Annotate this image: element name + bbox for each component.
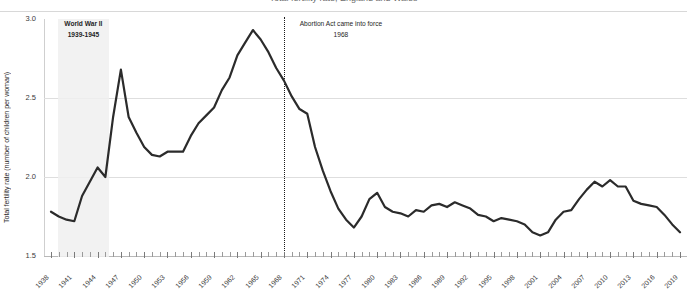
header-divider (0, 11, 687, 12)
chart-title: Total fertility rate, England and Wales (0, 0, 687, 3)
x-tick (680, 252, 681, 258)
x-tick (369, 252, 370, 257)
x-tick (276, 252, 277, 257)
x-tick (167, 252, 168, 258)
fertility-rate-series (51, 30, 680, 235)
x-tick (517, 252, 518, 258)
y-tick-label: 3.0 (14, 14, 36, 23)
x-tick (214, 252, 215, 258)
chart-title-strip: Total fertility rate, England and Wales (0, 0, 687, 11)
x-tick-label: 1995 (477, 273, 493, 289)
fertility-rate-chart: Total fertility rate, England and Wales … (0, 0, 687, 295)
x-tick (447, 252, 448, 258)
x-tick (284, 252, 285, 258)
x-tick (346, 252, 347, 257)
x-tick-label: 1944 (81, 273, 97, 289)
x-tick (237, 252, 238, 258)
x-tick (408, 252, 409, 257)
x-tick (556, 252, 557, 257)
x-tick-label: 1947 (104, 273, 120, 289)
x-tick (672, 252, 673, 257)
x-tick-label: 1965 (244, 273, 260, 289)
x-tick (416, 252, 417, 257)
x-tick-label: 2004 (547, 273, 563, 289)
x-tick (299, 252, 300, 257)
x-tick-label: 2016 (640, 273, 656, 289)
x-tick-label: 1983 (383, 273, 399, 289)
x-tick (564, 252, 565, 258)
x-tick-label: 2010 (593, 273, 609, 289)
x-tick (160, 252, 161, 257)
x-tick (105, 252, 106, 257)
x-tick-label: 1977 (337, 273, 353, 289)
x-tick (610, 252, 611, 258)
y-tick-label: 1.5 (14, 251, 36, 260)
x-tick (199, 252, 200, 257)
x-tick-label: 2001 (523, 273, 539, 289)
x-axis-line (44, 256, 687, 257)
x-tick (183, 252, 184, 257)
x-tick-label: 2007 (570, 273, 586, 289)
x-tick-label: 1989 (430, 273, 446, 289)
x-tick (657, 252, 658, 258)
x-tick (175, 252, 176, 257)
x-tick (455, 252, 456, 257)
x-tick (385, 252, 386, 257)
x-tick (338, 252, 339, 257)
x-tick (664, 252, 665, 257)
fertility-line-plot (44, 19, 687, 256)
x-tick-label: 1956 (174, 273, 190, 289)
x-tick (253, 252, 254, 257)
x-tick (67, 252, 68, 257)
x-tick (571, 252, 572, 257)
x-tick (377, 252, 378, 258)
x-tick (113, 252, 114, 257)
y-axis-label: Total fertility rate (number of children… (2, 52, 14, 242)
x-tick (618, 252, 619, 257)
y-tick-label: 2.0 (14, 172, 36, 181)
x-tick-label: 2019 (663, 273, 679, 289)
x-tick (470, 252, 471, 258)
x-tick (587, 252, 588, 258)
x-tick (222, 252, 223, 257)
x-tick-label: 1980 (360, 273, 376, 289)
x-tick (486, 252, 487, 257)
x-tick (331, 252, 332, 258)
x-tick (82, 252, 83, 257)
x-tick-label: 1974 (314, 273, 330, 289)
x-tick-label: 1992 (453, 273, 469, 289)
x-tick (323, 252, 324, 257)
x-tick (230, 252, 231, 257)
x-tick-label: 1959 (197, 273, 213, 289)
x-tick-label: 1962 (220, 273, 236, 289)
x-tick (191, 252, 192, 258)
x-tick-label: 1998 (500, 273, 516, 289)
x-tick (206, 252, 207, 257)
x-tick-label: 1950 (127, 273, 143, 289)
x-tick (501, 252, 502, 257)
x-tick (400, 252, 401, 258)
x-tick (595, 252, 596, 257)
x-tick (74, 252, 75, 258)
x-tick (307, 252, 308, 258)
x-tick (268, 252, 269, 257)
x-tick-label: 1986 (407, 273, 423, 289)
x-tick-label: 1971 (290, 273, 306, 289)
x-tick (59, 252, 60, 257)
x-tick (393, 252, 394, 257)
x-tick (354, 252, 355, 258)
x-tick (641, 252, 642, 257)
y-tick-label: 2.5 (14, 93, 36, 102)
x-tick (152, 252, 153, 257)
x-tick (432, 252, 433, 257)
x-tick (98, 252, 99, 258)
x-tick (532, 252, 533, 257)
x-tick (540, 252, 541, 258)
x-tick (51, 252, 52, 258)
x-tick (626, 252, 627, 257)
x-tick (315, 252, 316, 257)
x-tick-label: 2013 (616, 273, 632, 289)
x-tick (144, 252, 145, 258)
x-tick (424, 252, 425, 258)
x-tick (292, 252, 293, 257)
